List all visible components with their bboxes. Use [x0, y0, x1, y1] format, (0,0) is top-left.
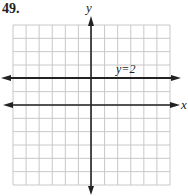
x-axis-arrow-left-icon — [3, 102, 13, 108]
x-axis-label: x — [180, 97, 187, 112]
y-axis-arrow-up-icon — [88, 16, 94, 26]
y-axis-label: y — [84, 0, 92, 15]
coordinate-plane: y x y=2 — [0, 0, 188, 196]
line-arrow-right-icon — [171, 75, 181, 81]
y-axis-arrow-down-icon — [88, 186, 94, 195]
line-arrow-left-icon — [1, 75, 11, 81]
line-label: y=2 — [115, 62, 135, 76]
x-axis-arrow-right-icon — [170, 102, 180, 108]
